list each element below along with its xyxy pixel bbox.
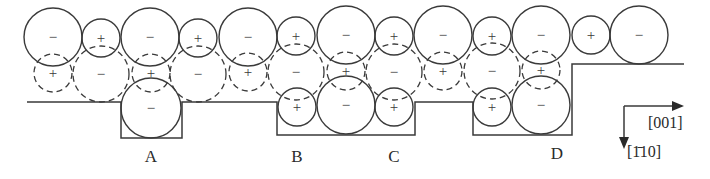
- minus-sign: −: [342, 27, 350, 43]
- minus-sign: −: [342, 97, 350, 113]
- site-label-d: D: [551, 144, 563, 163]
- bottom-row-ions: −+−++−: [121, 76, 570, 138]
- site-label-c: C: [388, 147, 399, 166]
- minus-sign: −: [390, 64, 398, 80]
- minus-sign: −: [537, 97, 545, 113]
- minus-sign: −: [194, 66, 202, 82]
- plus-sign: +: [488, 99, 496, 115]
- step-diagram: −+−+−+−+−+−+− +−+−+−+−+−+ −+−++− A B C D…: [0, 0, 710, 179]
- site-label-a: A: [145, 147, 158, 166]
- plus-sign: +: [97, 30, 105, 46]
- plus-sign: +: [293, 99, 301, 115]
- plus-sign: +: [439, 63, 447, 79]
- minus-sign: −: [147, 100, 155, 116]
- axis-label-001: [001]: [648, 114, 683, 131]
- plus-sign: +: [292, 28, 300, 44]
- minus-sign: −: [439, 27, 447, 43]
- minus-sign: −: [244, 29, 252, 45]
- minus-sign: −: [292, 64, 300, 80]
- plus-sign: +: [390, 99, 398, 115]
- crystal-axes: [001] [1̄10]: [619, 101, 684, 160]
- plus-sign: +: [194, 30, 202, 46]
- plus-sign: +: [244, 64, 252, 80]
- plus-sign: +: [587, 27, 595, 43]
- axis-label-110: [1̄10]: [627, 143, 661, 160]
- minus-sign: −: [146, 29, 154, 45]
- step-outline: [27, 64, 684, 138]
- minus-sign: −: [49, 29, 57, 45]
- plus-sign: +: [49, 65, 57, 81]
- minus-sign: −: [537, 27, 545, 43]
- plus-sign: +: [488, 28, 496, 44]
- site-label-b: B: [291, 147, 302, 166]
- minus-sign: −: [97, 66, 105, 82]
- minus-sign: −: [635, 27, 643, 43]
- arrow-right-icon: [672, 101, 684, 111]
- top-row-ions: −+−+−+−+−+−+−: [24, 6, 668, 66]
- minus-sign: −: [488, 63, 496, 79]
- plus-sign: +: [390, 28, 398, 44]
